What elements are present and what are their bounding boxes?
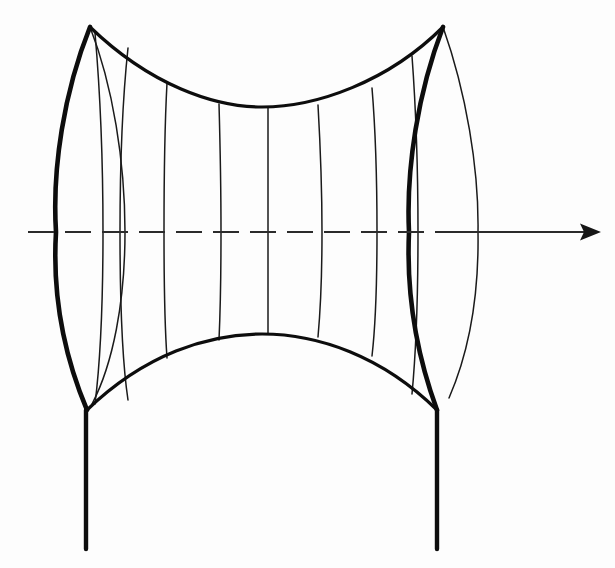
figure-background <box>0 0 615 568</box>
diagram-svg <box>0 0 615 568</box>
figure-canvas: Surface of revolution with vertical supp… <box>0 0 615 568</box>
